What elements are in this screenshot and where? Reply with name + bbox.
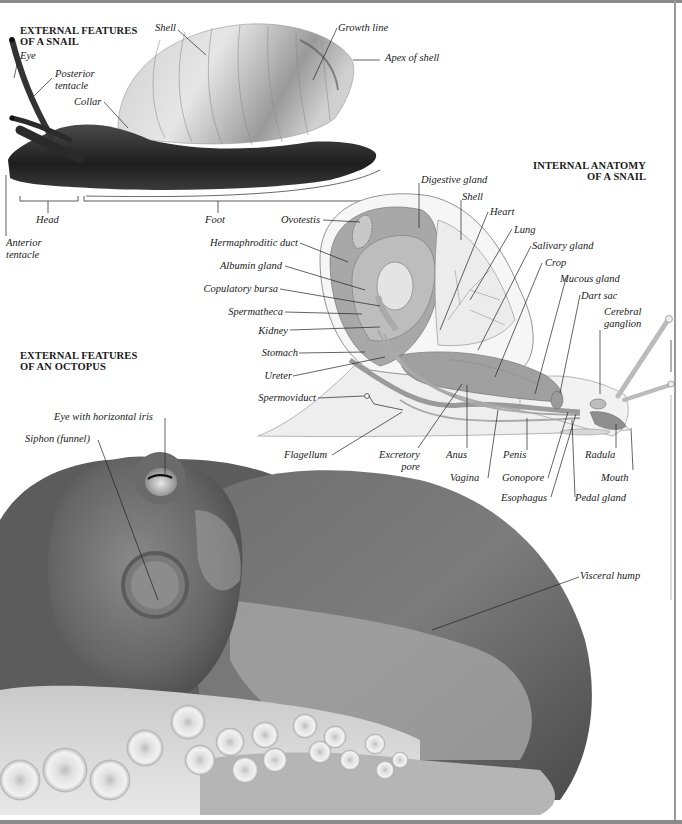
- label-line: Anterior: [6, 237, 66, 249]
- label-excretory-pore: Excretory pore: [368, 449, 420, 472]
- label-kidney: Kidney: [220, 325, 288, 337]
- label-line: Excretory: [368, 449, 420, 461]
- label-gonopore: Gonopore: [502, 472, 544, 484]
- label-internal-shell: Shell: [462, 191, 483, 203]
- label-stomach: Stomach: [220, 347, 298, 359]
- label-collar: Collar: [74, 96, 101, 108]
- label-crop: Crop: [545, 257, 566, 269]
- label-head: Head: [36, 214, 59, 226]
- heading-line-2: OF A SNAIL: [20, 36, 137, 47]
- octopus-art: [0, 452, 592, 815]
- label-mucous-gland: Mucous gland: [560, 273, 620, 285]
- label-ureter: Ureter: [220, 370, 292, 382]
- label-esophagus: Esophagus: [501, 492, 547, 504]
- label-pedal-gland: Pedal gland: [575, 492, 626, 504]
- heading-line-1: EXTERNAL FEATURES: [20, 350, 137, 361]
- label-dart-sac: Dart sac: [581, 290, 617, 302]
- label-cerebral-ganglion: Cerebral ganglion: [604, 306, 664, 329]
- label-shell: Shell: [155, 22, 176, 34]
- label-anterior-tentacle: Anterior tentacle: [6, 237, 66, 260]
- heading-line-1: INTERNAL ANATOMY: [496, 160, 646, 171]
- heading-snail-internal: INTERNAL ANATOMY OF A SNAIL: [496, 160, 646, 182]
- label-visceral-hump: Visceral hump: [580, 570, 640, 582]
- label-salivary-gland: Salivary gland: [532, 240, 594, 252]
- label-line: tentacle: [6, 249, 66, 261]
- label-anus: Anus: [446, 449, 467, 461]
- label-line: Posterior: [55, 68, 115, 80]
- label-line: tentacle: [55, 80, 115, 92]
- label-eye: Eye: [20, 50, 36, 62]
- heading-octopus-external: EXTERNAL FEATURES OF AN OCTOPUS: [20, 350, 137, 372]
- label-copulatory-bursa: Copulatory bursa: [180, 283, 278, 295]
- label-spermoviduct: Spermoviduct: [190, 392, 316, 404]
- label-heart: Heart: [490, 206, 515, 218]
- label-lung: Lung: [514, 224, 536, 236]
- label-albumin-gland: Albumin gland: [190, 260, 282, 272]
- label-growth-line: Growth line: [338, 22, 388, 34]
- label-spermatheca: Spermatheca: [200, 306, 283, 318]
- heading-line-2: OF A SNAIL: [496, 171, 646, 182]
- label-radula: Radula: [585, 449, 615, 461]
- snail-external-art: [8, 24, 380, 197]
- label-posterior-tentacle: Posterior tentacle: [55, 68, 115, 91]
- anatomy-page: EXTERNAL FEATURES OF A SNAIL INTERNAL AN…: [0, 0, 682, 824]
- border-right: [674, 0, 676, 820]
- label-line: ganglion: [604, 318, 664, 330]
- label-mouth: Mouth: [601, 472, 628, 484]
- label-eye-horizontal-iris: Eye with horizontal iris: [54, 411, 153, 423]
- label-line: pore: [368, 461, 420, 473]
- heading-line-1: EXTERNAL FEATURES: [20, 25, 137, 36]
- border-bottom: [0, 820, 682, 824]
- label-penis: Penis: [503, 449, 526, 461]
- border-top: [0, 0, 682, 3]
- label-digestive-gland: Digestive gland: [421, 174, 487, 186]
- label-hermaphroditic-duct: Hermaphroditic duct: [190, 237, 298, 249]
- label-siphon: Siphon (funnel): [25, 433, 90, 445]
- heading-snail-external: EXTERNAL FEATURES OF A SNAIL: [20, 25, 137, 47]
- heading-line-2: OF AN OCTOPUS: [20, 361, 137, 372]
- label-flagellum: Flagellum: [284, 449, 327, 461]
- label-line: Cerebral: [604, 306, 664, 318]
- label-ovotestis: Ovotestis: [222, 214, 320, 226]
- label-vagina: Vagina: [450, 472, 479, 484]
- label-apex-of-shell: Apex of shell: [385, 52, 439, 64]
